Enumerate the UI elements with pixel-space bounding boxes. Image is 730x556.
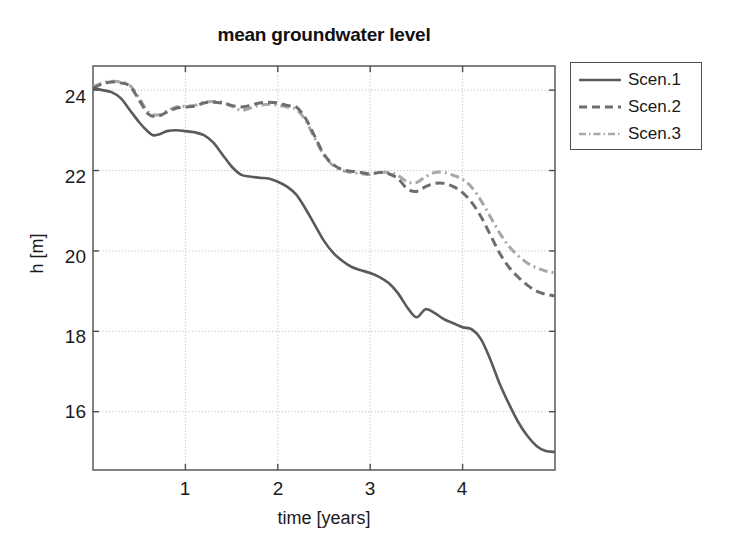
- chart-legend: Scen.1 Scen.2 Scen.3: [570, 62, 702, 150]
- legend-label: Scen.2: [628, 97, 681, 117]
- legend-entry-scen2[interactable]: Scen.2: [571, 94, 703, 120]
- legend-line-dashed-icon: [578, 100, 622, 114]
- legend-entry-scen1[interactable]: Scen.1: [571, 67, 703, 93]
- legend-line-solid-icon: [578, 73, 622, 87]
- series-line-scen3: [93, 81, 555, 273]
- legend-label: Scen.1: [628, 70, 681, 90]
- legend-label: Scen.3: [628, 124, 681, 144]
- legend-entry-scen3[interactable]: Scen.3: [571, 121, 703, 147]
- series-line-scen2: [93, 82, 555, 296]
- legend-line-dashdot-icon: [578, 127, 622, 141]
- chart-figure: mean groundwater level h [m] time [years…: [0, 0, 730, 556]
- series-line-scen1: [93, 88, 555, 452]
